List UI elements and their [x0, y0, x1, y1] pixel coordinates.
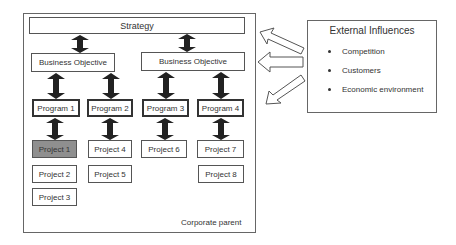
double-headed-arrow-icon [211, 118, 231, 140]
double-headed-arrow-icon [155, 118, 175, 140]
double-headed-arrow-icon [100, 118, 120, 140]
hollow-arrow-icon [257, 51, 305, 73]
double-headed-arrow-icon [101, 73, 121, 99]
program-box-4: Program 4 [197, 99, 244, 117]
corporate-parent-label: Corporate parent [181, 218, 241, 227]
project-box-5: Project 5 [88, 165, 132, 183]
external-influences-title: External Influences [308, 25, 436, 36]
double-headed-arrow-icon [211, 72, 231, 99]
bullet-icon [328, 50, 331, 53]
project-box-6: Project 6 [141, 140, 187, 158]
external-item-customers: Customers [328, 66, 381, 75]
project-box-8: Project 8 [198, 165, 244, 183]
program-box-3: Program 3 [142, 99, 189, 117]
double-headed-arrow-icon [45, 118, 65, 140]
project-box-2: Project 2 [32, 165, 77, 183]
project-box-1: Project 1 [32, 140, 77, 158]
double-headed-arrow-icon [70, 35, 90, 53]
program-box-1: Program 1 [32, 99, 80, 117]
project-box-7: Project 7 [197, 140, 244, 158]
bullet-icon [328, 69, 331, 72]
bullet-icon [328, 88, 331, 91]
double-headed-arrow-icon [156, 72, 176, 99]
external-item-competition: Competition [328, 47, 385, 56]
project-box-3: Project 3 [32, 188, 77, 206]
strategy-box: Strategy [29, 17, 245, 34]
business-objective-box-1: Business Objective [31, 53, 115, 72]
program-box-2: Program 2 [87, 99, 133, 117]
hollow-arrow-icon [264, 74, 306, 106]
project-box-4: Project 4 [88, 140, 132, 158]
double-headed-arrow-icon [177, 34, 197, 52]
business-objective-box-2: Business Objective [141, 52, 245, 71]
external-item-economic-environment: Economic environment [328, 85, 423, 94]
double-headed-arrow-icon [46, 73, 66, 99]
external-influences-box: External Influences Competition Customer… [307, 20, 437, 113]
